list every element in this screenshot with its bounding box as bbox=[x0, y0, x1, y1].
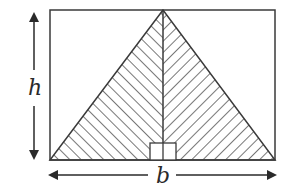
triangle-area-diagram: h b bbox=[0, 0, 281, 188]
base-label: b bbox=[156, 163, 170, 188]
height-label: h bbox=[28, 75, 42, 100]
